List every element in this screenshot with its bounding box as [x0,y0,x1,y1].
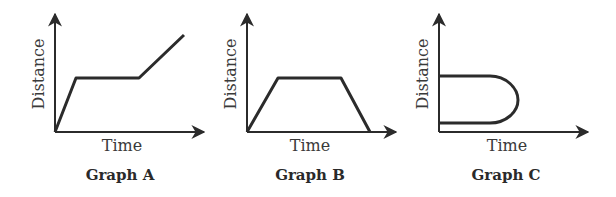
graph-a-line [55,35,184,132]
graph-b-line [247,78,370,132]
graph-b-title: Graph B [275,166,345,184]
graph-b-xlabel: Time [290,136,330,155]
graph-c: Distance Time Graph C [413,14,588,184]
graph-b-ylabel: Distance [221,39,240,110]
graph-a: Distance Time Graph A [29,14,204,184]
graph-c-ylabel: Distance [413,39,432,110]
graph-a-xlabel: Time [102,136,142,155]
graph-c-xlabel: Time [487,136,527,155]
graph-a-ylabel: Distance [29,39,48,110]
graph-c-title: Graph C [472,166,541,184]
graph-a-title: Graph A [86,166,155,184]
distance-time-graphs: Distance Time Graph A Distance Time Grap… [0,0,616,197]
graph-c-line [439,76,518,123]
graph-b: Distance Time Graph B [221,14,396,184]
